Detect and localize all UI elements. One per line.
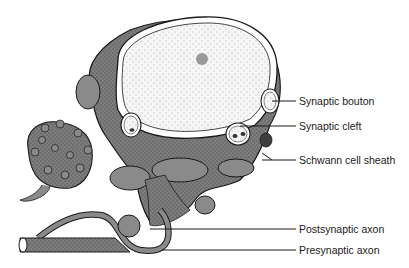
label-schwann-cell-sheath: Schwann cell sheath [299, 154, 395, 166]
label-synaptic-cleft: Synaptic cleft [299, 120, 361, 132]
label-synaptic-bouton: Synaptic bouton [299, 95, 374, 107]
diagram-canvas: Synaptic bouton Synaptic cleft Schwann c… [0, 0, 409, 268]
label-presynaptic-axon: Presynaptic axon [299, 244, 380, 256]
axons [19, 210, 168, 252]
nucleolus [196, 53, 208, 65]
small-neuron [20, 120, 92, 201]
label-postsynaptic-axon: Postsynaptic axon [299, 223, 384, 235]
